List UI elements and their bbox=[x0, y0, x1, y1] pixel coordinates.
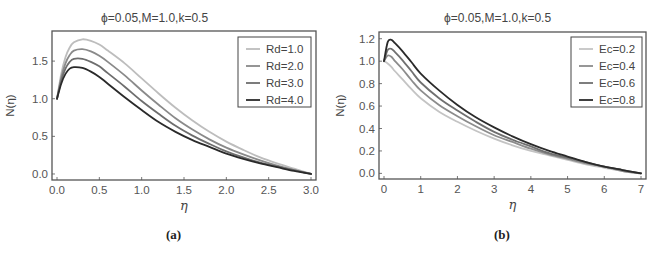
legend-label: Rd=2.0 bbox=[266, 60, 303, 72]
y-tick-label: 1.0 bbox=[32, 93, 48, 105]
caption-b: (b) bbox=[494, 227, 510, 243]
y-tick-label: 0.5 bbox=[32, 130, 48, 142]
x-tick-label: 3 bbox=[491, 183, 497, 195]
figure-panel-a: ϕ=0.05,M=1.0,k=0.5 0.00.51.01.52.02.53.0… bbox=[0, 0, 331, 253]
legend-label: Ec=0.6 bbox=[599, 77, 635, 89]
y-tick-label: 0.6 bbox=[359, 100, 375, 112]
chart-b: 012345670.00.20.40.60.81.01.2ηN(η)Ec=0.2… bbox=[331, 0, 662, 253]
x-tick-label: 1 bbox=[418, 183, 424, 195]
x-tick-label: 7 bbox=[638, 183, 644, 195]
y-axis-label-a: N(η) bbox=[4, 94, 16, 117]
x-tick-label: 0.5 bbox=[91, 184, 107, 196]
legend-label: Ec=0.4 bbox=[599, 60, 636, 72]
y-tick-label: 1.2 bbox=[359, 33, 375, 45]
legend-a: Rd=1.0Rd=2.0Rd=3.0Rd=4.0 bbox=[238, 37, 311, 107]
legend-label: Ec=0.8 bbox=[599, 94, 635, 106]
chart-a: 0.00.51.01.52.02.53.00.00.51.01.5ηN(η)Rd… bbox=[0, 0, 331, 253]
y-tick-label: 1.0 bbox=[359, 55, 375, 67]
x-tick-label: 4 bbox=[528, 183, 535, 195]
y-tick-label: 0.2 bbox=[359, 145, 375, 157]
legend-b: Ec=0.2Ec=0.4Ec=0.6Ec=0.8 bbox=[571, 37, 642, 107]
y-tick-label: 0.4 bbox=[359, 123, 376, 135]
x-tick-label: 2 bbox=[454, 183, 460, 195]
figure-panel-b: ϕ=0.05,M=1.0,k=0.5 012345670.00.20.40.60… bbox=[331, 0, 662, 253]
y-axis-label-b: N(η) bbox=[334, 94, 346, 117]
y-tick-label: 0.0 bbox=[359, 167, 375, 179]
y-tick-label: 0.8 bbox=[359, 78, 375, 90]
x-tick-label: 1.0 bbox=[134, 184, 150, 196]
x-tick-label: 5 bbox=[564, 183, 570, 195]
x-tick-label: 2.0 bbox=[218, 184, 234, 196]
legend-label: Ec=0.2 bbox=[599, 43, 635, 55]
y-tick-label: 0.0 bbox=[32, 168, 48, 180]
x-axis-label-b: η bbox=[509, 197, 517, 212]
x-tick-label: 1.5 bbox=[176, 184, 192, 196]
x-tick-label: 6 bbox=[601, 183, 607, 195]
x-tick-label: 3.0 bbox=[303, 184, 319, 196]
caption-a: (a) bbox=[166, 227, 181, 243]
x-axis-label-a: η bbox=[180, 198, 188, 213]
legend-label: Rd=3.0 bbox=[266, 77, 303, 89]
y-tick-label: 1.5 bbox=[32, 55, 48, 67]
x-tick-label: 0 bbox=[381, 183, 387, 195]
x-tick-label: 0.0 bbox=[49, 184, 65, 196]
x-tick-label: 2.5 bbox=[261, 184, 277, 196]
legend-label: Rd=1.0 bbox=[266, 43, 303, 55]
legend-label: Rd=4.0 bbox=[266, 94, 303, 106]
